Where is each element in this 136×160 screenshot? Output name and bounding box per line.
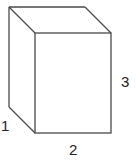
top-right-depth-edge — [85, 7, 111, 33]
front-face — [35, 33, 111, 133]
top-left-depth-edge — [9, 7, 35, 33]
bottom-left-depth-edge — [9, 107, 35, 133]
depth-label: 1 — [1, 117, 9, 134]
height-label: 3 — [121, 73, 129, 90]
box-diagram: 1 2 3 — [0, 0, 136, 160]
width-label: 2 — [69, 141, 77, 158]
